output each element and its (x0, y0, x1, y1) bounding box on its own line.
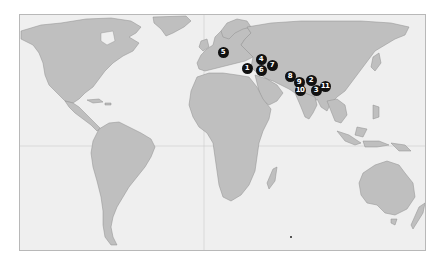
map-marker-7[interactable]: 7 (267, 60, 278, 71)
africa (189, 73, 271, 201)
tasmania (391, 219, 397, 225)
map-marker-4[interactable]: 4 (256, 54, 267, 65)
australia (359, 161, 415, 215)
philippines (373, 105, 379, 119)
new-zealand (411, 203, 425, 229)
island-dot (290, 236, 292, 238)
india (295, 93, 317, 119)
central-america (65, 101, 101, 131)
japan (371, 53, 381, 71)
south-america (91, 122, 155, 245)
map-marker-6[interactable]: 6 (256, 65, 267, 76)
map-marker-2[interactable]: 2 (306, 75, 317, 86)
greenland (153, 16, 191, 36)
indonesia (337, 127, 389, 147)
north-america (21, 18, 141, 103)
new-guinea (391, 143, 411, 151)
caribbean-islands (87, 99, 111, 105)
madagascar (267, 167, 277, 189)
southeast-asia (327, 99, 347, 123)
map-marker-5[interactable]: 5 (218, 47, 229, 58)
world-map[interactable]: 1 2 3 4 5 6 7 8 9 10 11 (19, 14, 426, 251)
map-marker-10[interactable]: 10 (295, 85, 306, 96)
map-marker-1[interactable]: 1 (242, 63, 253, 74)
map-marker-11[interactable]: 11 (320, 81, 331, 92)
